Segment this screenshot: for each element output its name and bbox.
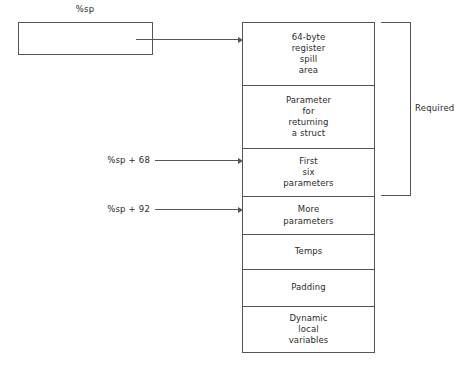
stack-cell-spill-area: 64-byte register spill area	[242, 22, 375, 85]
stack-frame-diagram: %sp %sp + 68 %sp + 92 64-byte register s…	[0, 0, 466, 367]
stack-cell-label: 64-byte register spill area	[292, 32, 326, 77]
stack-cell-dynamic-local-variables: Dynamic local variables	[242, 306, 375, 353]
stack-column: 64-byte register spill area Parameter fo…	[242, 22, 375, 353]
required-bracket-label: Required	[415, 103, 454, 113]
stack-cell-first-six-parameters: First six parameters	[242, 148, 375, 196]
offset-label-sp-68: %sp + 68	[70, 155, 150, 165]
stack-cell-label: More parameters	[283, 204, 333, 226]
offset-label-sp-92: %sp + 92	[70, 204, 150, 214]
stack-cell-more-parameters: More parameters	[242, 196, 375, 234]
stack-cell-label: Dynamic local variables	[289, 313, 329, 347]
offset-arrow-sp-92	[155, 205, 243, 214]
stack-cell-padding: Padding	[242, 269, 375, 306]
offset-arrow-sp-68	[155, 156, 243, 165]
stack-cell-struct-return: Parameter for returning a struct	[242, 85, 375, 148]
required-bracket	[381, 22, 411, 196]
stack-cell-label: Temps	[295, 246, 323, 257]
sp-pointer-label: %sp	[55, 4, 115, 14]
stack-cell-label: Parameter for returning a struct	[286, 95, 331, 140]
stack-cell-label: First six parameters	[283, 156, 333, 190]
sp-register-box	[18, 22, 153, 55]
stack-cell-label: Padding	[291, 282, 326, 293]
stack-cell-temps: Temps	[242, 234, 375, 269]
